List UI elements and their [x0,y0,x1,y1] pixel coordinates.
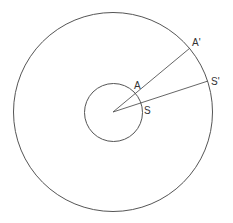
ray-to-a-prime [113,48,190,112]
ray-to-s-prime [113,81,208,112]
concentric-circles-diagram [0,0,233,223]
label-s-prime: S' [211,77,220,87]
label-a: A [134,81,141,91]
label-a-prime: A' [192,38,201,48]
inner-circle [85,84,143,142]
label-s: S [144,106,151,116]
